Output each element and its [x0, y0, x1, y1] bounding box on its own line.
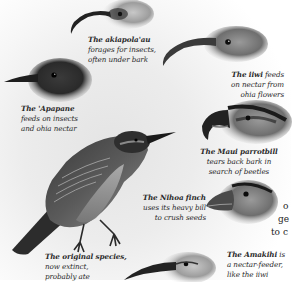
- caption-line: and ohia nectar: [21, 124, 78, 134]
- caption-original-species: The original species, now extinct, proba…: [45, 252, 127, 282]
- caption-title: The Amakihi: [227, 250, 277, 259]
- caption-line: tears back bark in: [192, 157, 286, 167]
- body-text-line: ge: [262, 213, 302, 226]
- caption-line: to crush seeds: [128, 213, 206, 223]
- caption-line: forages for insects,: [88, 45, 156, 55]
- maui-parrotbill-head-illustration: [196, 100, 291, 144]
- apapane-head-illustration: [2, 56, 94, 102]
- iiwi-head-illustration: [158, 26, 268, 68]
- caption-line: search of beetles: [192, 167, 286, 177]
- caption-line: feeds on insects: [21, 114, 78, 124]
- caption-title: The akiapola'au: [88, 35, 156, 45]
- caption-iiwi: The iiwi feeds on nectar from ohia flowe…: [200, 70, 284, 100]
- caption-line: probably ate: [45, 272, 127, 282]
- body-text-line: o: [262, 200, 302, 213]
- caption-nihoa-finch: The Nihoa finch uses its heavy bill to c…: [128, 193, 206, 223]
- caption-akiapolaau: The akiapola'au forages for insects, oft…: [88, 35, 156, 65]
- caption-maui-parrotbill: The Maui parrotbill tears back bark in s…: [192, 147, 286, 177]
- caption-line: a nectar-feeder,: [227, 260, 285, 270]
- caption-line: ohia flowers: [200, 90, 284, 100]
- caption-line: often under bark: [88, 55, 156, 65]
- akiapolaau-head-illustration: [68, 0, 158, 40]
- caption-title: The iiwi: [232, 70, 263, 79]
- caption-line: now extinct,: [45, 262, 127, 272]
- caption-title: The Nihoa finch: [128, 193, 206, 203]
- cut-off-body-text: o ge to c: [262, 200, 302, 239]
- amakihi-head-illustration: [122, 246, 222, 280]
- caption-line: feeds: [263, 70, 284, 79]
- caption-line: uses its heavy bill: [128, 203, 206, 213]
- caption-apapane: The 'Apapane feeds on insects and ohia n…: [21, 104, 78, 134]
- caption-amakihi: The Amakihi is a nectar-feeder, like the…: [227, 250, 285, 280]
- caption-line: on nectar from: [200, 80, 284, 90]
- body-text-line: to c: [262, 226, 302, 239]
- caption-title: The 'Apapane: [21, 104, 78, 114]
- caption-line: like the iiwi: [227, 270, 285, 280]
- caption-line: is: [277, 250, 285, 259]
- caption-title: The original species,: [45, 252, 127, 262]
- caption-title: The Maui parrotbill: [192, 147, 286, 157]
